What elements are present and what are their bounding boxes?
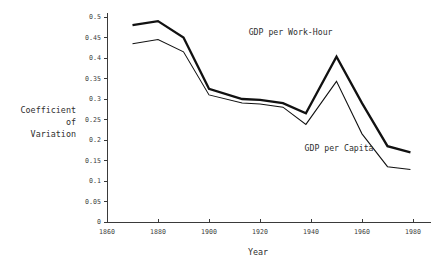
y-axis-title-line: of (66, 117, 76, 127)
x-tick-label: 1900 (201, 228, 217, 236)
x-tick-label: 1940 (303, 228, 319, 236)
y-tick-label: 0.3 (89, 95, 101, 103)
y-tick-label: 0.05 (85, 198, 101, 206)
y-axis-title-line: Coefficient (21, 105, 76, 115)
series-label-gdp-per-capita: GDP per Capita (305, 143, 374, 153)
y-tick-label: 0.1 (89, 177, 101, 185)
x-tick-label: 1920 (252, 228, 268, 236)
y-tick-label: 0.15 (85, 157, 101, 165)
y-tick-label: 0.35 (85, 75, 101, 83)
y-axis-title-line: Variation (31, 129, 76, 139)
y-tick-label: 0.2 (89, 136, 101, 144)
x-tick-label: 1880 (150, 228, 166, 236)
coefficient-of-variation-line-chart: 00.050.10.150.20.250.30.350.40.450.5 186… (0, 0, 435, 268)
x-tick-label: 1860 (99, 228, 115, 236)
y-tick-label: 0.5 (89, 13, 101, 21)
x-tick-label: 1980 (405, 228, 421, 236)
y-tick-label: 0 (97, 218, 101, 226)
x-tick-label: 1960 (354, 228, 370, 236)
x-axis-title: Year (248, 247, 268, 257)
series-line-gdp-per-work-hour (133, 21, 411, 152)
y-tick-label: 0.4 (89, 54, 101, 62)
y-axis-ticks: 00.050.10.150.20.250.30.350.40.450.5 (85, 13, 108, 226)
y-axis-title: CoefficientofVariation (21, 105, 76, 139)
series-label-gdp-per-work-hour: GDP per Work-Hour (249, 27, 333, 37)
y-tick-label: 0.45 (85, 34, 101, 42)
y-tick-label: 0.25 (85, 116, 101, 124)
chart-page: 00.050.10.150.20.250.30.350.40.450.5 186… (0, 0, 435, 268)
